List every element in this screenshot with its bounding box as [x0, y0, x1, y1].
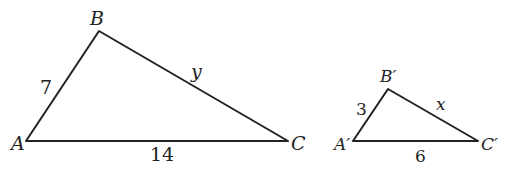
triangle-abc-outline	[26, 31, 288, 141]
side-ac-label: 14	[150, 143, 174, 165]
vertex-b-prime-label: B′	[379, 66, 396, 86]
triangle-abc: A B C 7 y 14	[9, 7, 306, 165]
side-a-prime-b-prime-label: 3	[356, 99, 367, 119]
vertex-b-label: B	[89, 7, 104, 29]
vertex-c-label: C	[291, 132, 306, 154]
side-ab-label: 7	[40, 76, 52, 98]
side-a-prime-c-prime-label: 6	[415, 146, 426, 166]
similar-triangles-diagram: A B C 7 y 14 A′ B′ C′ 3 x 6	[0, 0, 511, 177]
triangle-a-prime-b-prime-c-prime-outline	[353, 89, 478, 141]
side-bc-label: y	[190, 60, 202, 82]
vertex-c-prime-label: C′	[481, 134, 498, 154]
vertex-a-prime-label: A′	[332, 134, 350, 154]
triangle-a-prime-b-prime-c-prime: A′ B′ C′ 3 x 6	[332, 66, 498, 166]
side-b-prime-c-prime-label: x	[436, 94, 446, 114]
vertex-a-label: A	[9, 132, 25, 154]
